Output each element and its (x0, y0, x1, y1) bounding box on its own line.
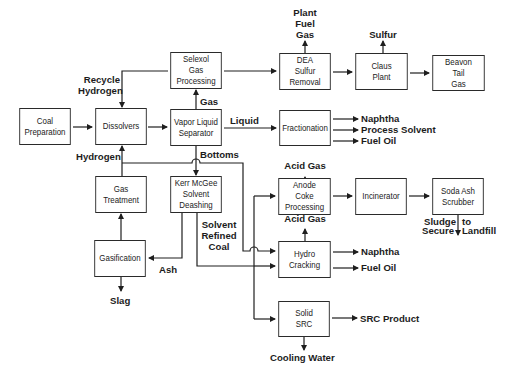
label-fuel-oil-hydro: Fuel Oil (361, 262, 396, 273)
label-naphtha-hydro: Naphtha (361, 246, 399, 257)
box-vapor-liquid-separator: Vapor Liquid Separator (170, 109, 222, 146)
label-src-product: SRC Product (360, 313, 419, 324)
label-acid-gas-hydro: Acid Gas (283, 213, 327, 224)
label-plant-fuel-gas: Plant Fuel Gas (290, 7, 320, 40)
label-recycle-hydrogen: Recycle Hydrogen (78, 74, 120, 96)
box-soda-ash-scrubber: Soda Ash Scrubber (432, 178, 484, 215)
box-beavon-tail-gas: Beavon Tail Gas (432, 55, 484, 91)
label-acid-gas-anode: Acid Gas (283, 160, 327, 171)
box-hydro-cracking: Hydro Cracking (278, 241, 330, 278)
label-landfill: Landfill (462, 225, 496, 236)
box-vls-label: Vapor Liquid Separator (174, 117, 218, 139)
box-dissolvers: Dissolvers (95, 108, 147, 145)
label-slag: Slag (110, 295, 130, 306)
box-gas-treatment: Gas Treatment (95, 176, 147, 213)
box-fractionation-label: Fractionation (282, 123, 328, 134)
box-gasification-label: Gasification (99, 253, 140, 264)
box-incinerator-label: Incinerator (362, 191, 399, 202)
box-anode-coke-processing: Anode Coke Processing (278, 178, 330, 215)
box-kerr-mcgee: Kerr McGee Solvent Deashing (170, 176, 222, 213)
label-bottoms: Bottoms (200, 149, 239, 160)
box-dissolvers-label: Dissolvers (103, 121, 139, 132)
label-liquid: Liquid (230, 115, 259, 126)
box-gas-treatment-label: Gas Treatment (103, 184, 139, 206)
box-coal-preparation: Coal Preparation (19, 108, 71, 145)
label-cooling-water: Cooling Water (270, 352, 335, 363)
label-fuel-oil-frac: Fuel Oil (361, 135, 396, 146)
box-dea-label: DEA Sulfur Removal (289, 55, 320, 88)
label-process-solvent: Process Solvent (361, 124, 436, 135)
label-ash: Ash (159, 264, 177, 275)
box-fractionation: Fractionation (279, 110, 331, 146)
box-anode-coke-label: Anode Coke Processing (285, 180, 324, 213)
box-coal-preparation-label: Coal Preparation (25, 116, 66, 138)
box-beavon-label: Beavon Tail Gas (445, 57, 472, 90)
box-selexol-gas-processing: Selexol Gas Processing (170, 52, 222, 89)
label-gas: Gas (200, 96, 218, 107)
label-naphtha-frac: Naphtha (361, 113, 399, 124)
box-hydro-cracking-label: Hydro Cracking (289, 249, 320, 271)
label-sulfur: Sulfur (364, 29, 402, 40)
box-soda-ash-label: Soda Ash Scrubber (441, 186, 475, 208)
box-claus-plant: Claus Plant (355, 53, 407, 90)
label-hydrogen: Hydrogen (76, 151, 121, 162)
box-incinerator: Incinerator (355, 178, 407, 215)
box-selexol-label: Selexol Gas Processing (176, 54, 215, 87)
box-solid-src: Solid SRC (278, 301, 330, 337)
box-claus-label: Claus Plant (371, 61, 391, 83)
label-solvent-refined-coal: Solvent Refined Coal (200, 219, 238, 252)
box-kerr-mcgee-label: Kerr McGee Solvent Deashing (175, 178, 218, 211)
box-dea-sulfur-removal: DEA Sulfur Removal (279, 53, 331, 90)
label-secure: Secure (422, 225, 454, 236)
box-solid-src-label: Solid SRC (295, 308, 313, 330)
box-gasification: Gasification (94, 240, 146, 277)
